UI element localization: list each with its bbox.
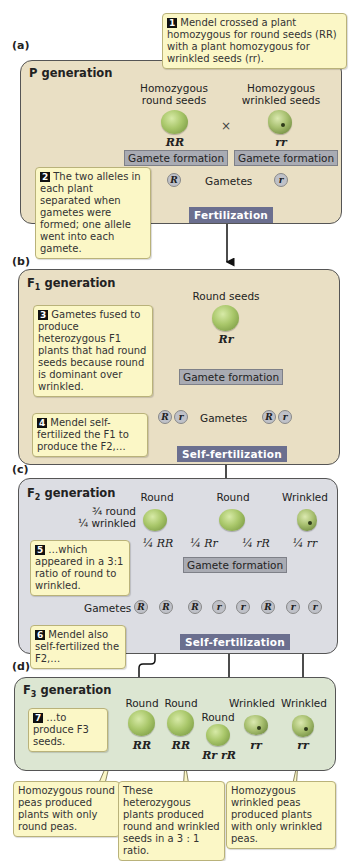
note-text: Mendel self-fertilized the F1 to produce… bbox=[37, 417, 129, 452]
note-text: …which appeared in a 3:1 ratio of round … bbox=[35, 544, 123, 591]
p-right-label: Homozygous wrinkled seeds bbox=[236, 82, 326, 106]
ratio-wrinkled: ¼ wrinkled bbox=[66, 517, 136, 529]
note-number: 2 bbox=[40, 172, 50, 182]
p-left-genotype: RR bbox=[160, 136, 190, 149]
p-right-label-line2: wrinkled seeds bbox=[236, 94, 326, 106]
f2-genotype: ¼ Rr bbox=[186, 537, 222, 550]
p-generation-title: P generation bbox=[29, 66, 112, 80]
note-5: 5…which appeared in a 3:1 ratio of round… bbox=[30, 540, 130, 596]
p-left-label-line2: round seeds bbox=[133, 94, 215, 106]
f2-gametes-label: Gametes bbox=[84, 602, 130, 614]
f2-round-pea-image bbox=[143, 509, 167, 531]
f2-ratio: ¾ round ¼ wrinkled bbox=[66, 505, 136, 529]
f2-allele: R bbox=[134, 600, 148, 614]
self-fertilization-box-f1: Self-fertilization bbox=[177, 446, 287, 462]
note-text: Gametes fused to produce heterozygous F1… bbox=[38, 309, 146, 392]
allele-R: R bbox=[167, 173, 181, 187]
note-number: 6 bbox=[35, 630, 45, 640]
f1-generation-title: F1 generation bbox=[27, 276, 115, 292]
f3-round-pea-image bbox=[128, 710, 155, 736]
f1-allele: r bbox=[278, 410, 292, 424]
ratio-round: ¾ round bbox=[66, 505, 136, 517]
f2-phenotype-2: Round bbox=[213, 491, 253, 503]
f2-genotype: ¼ RR bbox=[140, 537, 176, 550]
f2-gamete-formation: Gamete formation bbox=[183, 557, 287, 573]
round-pea-image bbox=[161, 110, 188, 134]
f1-gamete-formation: Gamete formation bbox=[179, 369, 283, 385]
f3-round-pea-image bbox=[167, 710, 194, 736]
panel-d-label: (d) bbox=[12, 660, 30, 673]
title-rest: generation bbox=[40, 276, 115, 290]
f3-phenotype: Round bbox=[162, 697, 200, 709]
f2-allele: R bbox=[188, 600, 202, 614]
f2-wrinkled-pea-image bbox=[297, 509, 317, 531]
bottom-note-homozygous-round: Homozygous round peas produced plants wi… bbox=[13, 781, 120, 837]
allele-r: r bbox=[274, 173, 288, 187]
bottom-note-homozygous-wrinkled: Homozygous wrinkled peas produced plants… bbox=[226, 781, 336, 849]
f1-allele: r bbox=[174, 410, 188, 424]
panel-b-label: (b) bbox=[12, 255, 30, 268]
note-text: The two alleles in each plant separated … bbox=[40, 171, 141, 254]
p-right-gamete-formation: Gamete formation bbox=[234, 150, 338, 166]
f2-genotype: ¼ rR bbox=[238, 537, 274, 550]
title-letter: F bbox=[27, 276, 35, 290]
panel-a-label: (a) bbox=[12, 39, 29, 52]
fertilization-box: Fertilization bbox=[189, 207, 273, 223]
wrinkled-pea-image bbox=[268, 110, 292, 134]
f3-genotype: RR bbox=[127, 739, 157, 752]
f2-allele: R bbox=[159, 600, 173, 614]
f2-allele: R bbox=[261, 600, 275, 614]
f1-genotype: Rr bbox=[211, 333, 241, 346]
panel-c-label: (c) bbox=[12, 463, 29, 476]
f2-generation-title: F2 generation bbox=[27, 486, 115, 502]
note-number: 5 bbox=[35, 545, 45, 555]
note-7: 7…to produce F3 seeds. bbox=[28, 708, 108, 752]
f2-round-pea-image bbox=[219, 509, 245, 531]
p-left-label: Homozygous round seeds bbox=[133, 82, 215, 106]
f1-seed-label: Round seeds bbox=[186, 290, 266, 302]
f3-phenotype: Round bbox=[199, 711, 237, 723]
note-text: Mendel crossed a plant homozygous for ro… bbox=[167, 17, 337, 64]
f2-allele: r bbox=[286, 600, 300, 614]
note-text: Mendel also self-fertilized the F2,… bbox=[35, 629, 119, 664]
f3-generation-title: F3 generation bbox=[23, 683, 111, 699]
f3-genotype: rr bbox=[288, 739, 318, 752]
f3-genotype: RR bbox=[166, 739, 196, 752]
f2-allele: r bbox=[236, 600, 250, 614]
note-number: 4 bbox=[37, 418, 47, 428]
p-right-genotype: rr bbox=[266, 136, 296, 149]
bottom-note-heterozygous: These heterozygous plants produced round… bbox=[118, 781, 225, 861]
note-2: 2The two alleles in each plant separated… bbox=[35, 167, 151, 259]
note-number: 7 bbox=[33, 713, 43, 723]
f3-wrinkled-pea-image bbox=[244, 715, 268, 735]
f3-phenotype: Round bbox=[123, 697, 161, 709]
f2-allele: r bbox=[308, 600, 322, 614]
self-fertilization-box-f2: Self-fertilization bbox=[180, 634, 290, 650]
f2-genotype: ¼ rr bbox=[290, 537, 320, 550]
f1-round-pea-image bbox=[212, 305, 239, 331]
f3-genotype: rr bbox=[241, 739, 271, 752]
note-6: 6Mendel also self-fertilized the F2,… bbox=[30, 625, 126, 669]
cross-symbol: × bbox=[221, 119, 231, 133]
note-number: 1 bbox=[167, 18, 177, 28]
f3-genotype: Rr rR bbox=[197, 749, 241, 762]
f2-allele: r bbox=[212, 600, 226, 614]
note-1: 1Mendel crossed a plant homozygous for r… bbox=[162, 13, 347, 69]
note-number: 3 bbox=[38, 310, 48, 320]
f3-wrinkled-pea-image bbox=[292, 715, 314, 737]
f2-phenotype-3: Wrinkled bbox=[282, 491, 328, 503]
p-left-gamete-formation: Gamete formation bbox=[124, 150, 228, 166]
title-rest: generation bbox=[40, 486, 115, 500]
title-letter: F bbox=[27, 486, 35, 500]
p-left-label-line1: Homozygous bbox=[133, 82, 215, 94]
note-4: 4Mendel self-fertilized the F1 to produc… bbox=[32, 413, 148, 457]
f1-allele: R bbox=[158, 410, 172, 424]
f1-gametes-label: Gametes bbox=[200, 412, 246, 424]
title-rest: generation bbox=[36, 683, 111, 697]
p-right-label-line1: Homozygous bbox=[236, 82, 326, 94]
f3-round-pea-image bbox=[206, 724, 230, 746]
f2-phenotype-1: Round bbox=[139, 491, 175, 503]
title-letter: F bbox=[23, 683, 31, 697]
note-3: 3Gametes fused to produce heterozygous F… bbox=[33, 305, 153, 397]
f1-allele: R bbox=[262, 410, 276, 424]
